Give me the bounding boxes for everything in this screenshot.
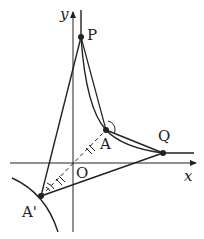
segment-PA — [81, 37, 106, 130]
point-A-prime — [38, 193, 44, 199]
segment-A-prime-Q — [41, 153, 163, 196]
origin-label: O — [76, 164, 88, 182]
point-P — [78, 34, 84, 40]
geometry-diagram: y x O P A Q A' — [0, 0, 204, 239]
label-P: P — [87, 26, 97, 44]
point-Q — [160, 150, 166, 156]
y-axis-label: y — [59, 5, 69, 23]
hyperbola-upper-branch — [81, 10, 194, 153]
segment-PA-prime — [41, 37, 81, 196]
label-A-prime: A' — [21, 203, 37, 221]
point-A — [103, 127, 109, 133]
label-Q: Q — [158, 127, 170, 145]
x-axis-label: x — [184, 167, 193, 185]
label-A: A — [99, 135, 111, 153]
